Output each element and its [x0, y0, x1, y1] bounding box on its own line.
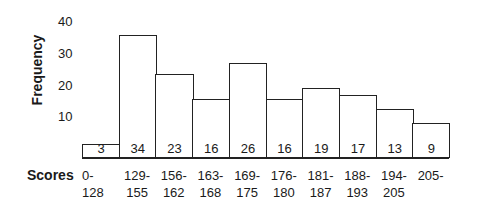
x-tick-label: 129- 155: [119, 167, 155, 201]
histogram-bar: 17: [339, 95, 377, 158]
histogram-bar: 26: [229, 63, 267, 158]
histogram-bar: 19: [302, 88, 340, 158]
y-tick-30: 30: [58, 46, 80, 61]
x-axis-title: Scores: [27, 167, 74, 183]
x-axis-baseline: [82, 157, 449, 159]
histogram-bar: 9: [412, 123, 450, 158]
histogram-bar: 16: [192, 99, 230, 158]
histogram-bar: 13: [376, 109, 414, 158]
bar-value-label: 3: [83, 141, 119, 156]
x-tick-label: 176- 180: [266, 167, 302, 201]
histogram-bar: 16: [266, 99, 304, 158]
x-tick-label: 163- 168: [192, 167, 228, 201]
bar-value-label: 23: [156, 141, 192, 156]
y-tick-40: 40: [58, 14, 80, 29]
x-tick-label: 156- 162: [156, 167, 192, 201]
histogram-bar: 23: [155, 74, 193, 158]
bar-value-label: 9: [413, 141, 449, 156]
x-tick-label: 0- 128: [82, 167, 118, 201]
plot-area: 334231626161917139: [82, 0, 450, 158]
bar-value-label: 17: [340, 141, 376, 156]
y-tick-10: 10: [58, 109, 80, 124]
bar-value-label: 16: [193, 141, 229, 156]
bar-value-label: 13: [377, 141, 413, 156]
x-tick-label: 181- 187: [303, 167, 339, 201]
bar-value-label: 16: [267, 141, 303, 156]
bar-value-label: 34: [120, 141, 156, 156]
x-tick-label: 169- 175: [229, 167, 265, 201]
y-axis-title: Frequency: [29, 35, 45, 106]
x-tick-label: 194- 205: [376, 167, 412, 201]
x-tick-label: 188- 193: [339, 167, 375, 201]
histogram-bar: 3: [82, 144, 120, 158]
bar-value-label: 19: [303, 141, 339, 156]
x-tick-label: 205-: [413, 167, 449, 184]
histogram-bar: 34: [119, 35, 157, 158]
y-tick-20: 20: [58, 78, 80, 93]
bar-value-label: 26: [230, 141, 266, 156]
